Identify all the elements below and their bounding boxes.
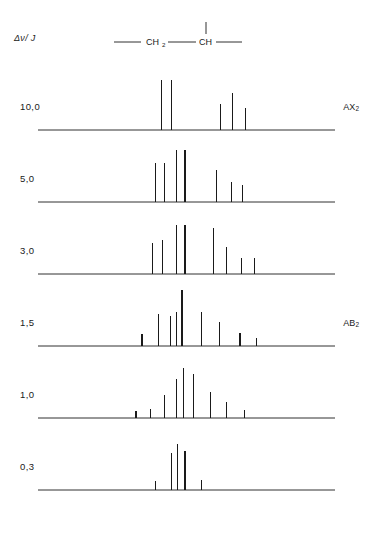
- spectrum-plot: [0, 282, 371, 354]
- spectrum-plot: [0, 138, 371, 210]
- spectrum-row: 3,0: [0, 210, 371, 282]
- ch2-subscript: 2: [162, 41, 166, 48]
- spectrum-row: 0,3: [0, 426, 371, 498]
- structure-formula: CH 2 CH: [108, 18, 268, 52]
- spectrum-row: 1,5AB2: [0, 282, 371, 354]
- nmr-spectra-figure: Δν/ J CH 2 CH 10,0AX25,03,01,5AB21,00,3: [0, 0, 371, 541]
- axis-caption: Δν/ J: [14, 33, 36, 43]
- spectrum-plot: [0, 210, 371, 282]
- spectrum-row: 1,0: [0, 354, 371, 426]
- spectrum-row: 10,0AX2: [0, 66, 371, 138]
- structure-formula-svg: CH 2 CH: [108, 18, 268, 52]
- spectrum-row: 5,0: [0, 138, 371, 210]
- spectrum-plot: [0, 426, 371, 498]
- spectrum-plot: [0, 66, 371, 138]
- ch2-label: CH: [146, 37, 159, 47]
- ch-label: CH: [199, 37, 212, 47]
- spectrum-plot: [0, 354, 371, 426]
